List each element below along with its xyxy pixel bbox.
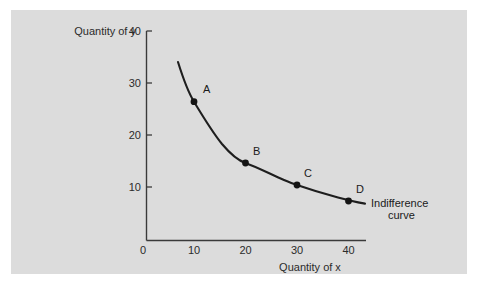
x-axis-title: Quantity of x — [279, 261, 341, 273]
x-tick-label-10: 10 — [188, 244, 200, 256]
data-point-label-b: B — [253, 145, 260, 157]
curve-annotation-line-2: curve — [388, 209, 415, 221]
x-tick-label-30: 30 — [291, 244, 303, 256]
data-point-label-d: D — [356, 183, 364, 195]
data-point-a — [191, 98, 198, 105]
x-tick-label-0: 0 — [140, 244, 146, 256]
data-point-label-a: A — [203, 83, 211, 95]
data-point-d — [345, 198, 352, 205]
x-tick-label-40: 40 — [342, 244, 354, 256]
y-tick-label-20: 20 — [129, 129, 141, 141]
figure-container: 40 30 20 10 Quantity of y 0 10 20 30 40 … — [0, 0, 478, 288]
data-point-c — [294, 182, 301, 189]
x-tick-label-20: 20 — [239, 244, 251, 256]
y-axis-title: Quantity of y — [74, 25, 136, 37]
y-tick-label-30: 30 — [129, 77, 141, 89]
indifference-curve-chart: 40 30 20 10 Quantity of y 0 10 20 30 40 … — [0, 0, 478, 288]
curve-annotation-line-1: Indifference — [371, 197, 428, 209]
data-point-b — [242, 160, 249, 167]
y-tick-label-10: 10 — [129, 181, 141, 193]
data-point-label-c: C — [304, 167, 312, 179]
